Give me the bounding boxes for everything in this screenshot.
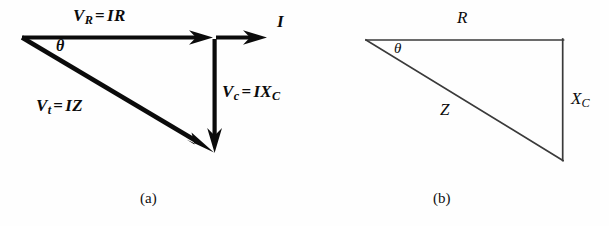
figure-svg [0, 0, 609, 226]
label-impedance: Z [440, 101, 449, 118]
label-reactance: XC [571, 90, 590, 110]
label-resistance: R [457, 9, 467, 26]
caption-panel-b: (b) [433, 190, 451, 207]
label-angle-theta-a: θ [56, 38, 64, 54]
caption-panel-a: (a) [140, 190, 157, 207]
label-vr-equals: = [93, 6, 107, 25]
figure-canvas: VR=IR I θ Vt=IZ Vc=IXC R θ Z XC (a) (b) [0, 0, 609, 226]
label-vc-symbol: V [222, 82, 234, 101]
label-vc-expression: IX [253, 82, 272, 101]
label-vt-symbol: V [36, 96, 48, 115]
label-current: I [277, 13, 284, 30]
label-total-voltage: Vt=IZ [36, 97, 83, 117]
label-angle-theta-b: θ [394, 41, 401, 56]
label-vc-equals: = [239, 82, 253, 101]
triangle-side-z [366, 40, 563, 161]
label-vr-subscript: R [85, 13, 93, 27]
label-resistive-voltage: VR=IR [73, 7, 126, 27]
label-capacitive-voltage: Vc=IXC [222, 83, 280, 103]
label-vc-expression-subscript: C [272, 89, 280, 103]
label-vr-expression: IR [107, 6, 126, 25]
impedance-triangle-b [366, 39, 564, 161]
vector-vt-shaft [22, 38, 198, 143]
label-vt-equals: = [51, 96, 65, 115]
label-xc-symbol: X [571, 89, 581, 108]
label-vt-expression: IZ [65, 96, 83, 115]
label-vr-symbol: V [73, 6, 85, 25]
label-xc-subscript: C [581, 96, 589, 110]
